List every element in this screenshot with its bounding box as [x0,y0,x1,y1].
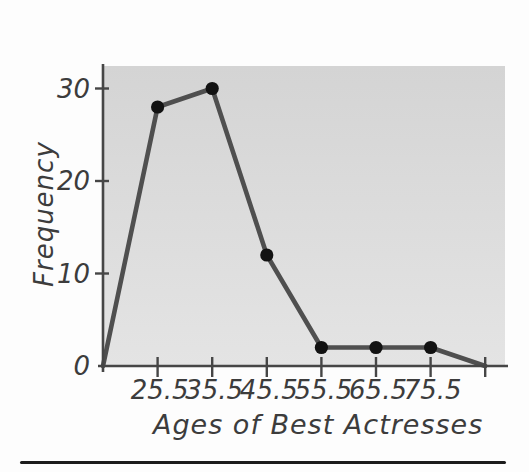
data-point-marker [424,341,437,354]
data-point-marker [151,100,164,113]
y-axis-title: Frequency [31,155,57,287]
x-tick-label: 65.5 [349,375,407,405]
y-tick-label: 10 [57,259,90,289]
x-tick-label: 35.5 [185,375,243,405]
y-tick-label: 30 [57,74,90,104]
x-tick-label: 55.5 [294,375,352,405]
data-point-marker [315,341,328,354]
data-point-marker [260,248,273,261]
frequency-polygon-chart: 010203025.535.545.555.565.575.5 [0,0,529,460]
x-tick-label: 25.5 [131,375,189,405]
frequency-polygon-figure: 010203025.535.545.555.565.575.5 Frequenc… [0,0,529,472]
x-tick-label: 45.5 [240,375,298,405]
y-tick-label: 20 [57,166,90,196]
x-tick-label: 75.5 [404,375,462,405]
y-tick-label: 0 [73,351,90,381]
x-axis-title: Ages of Best Actresses [153,411,453,438]
bottom-divider [20,461,506,464]
data-point-marker [206,82,219,95]
data-point-marker [369,341,382,354]
